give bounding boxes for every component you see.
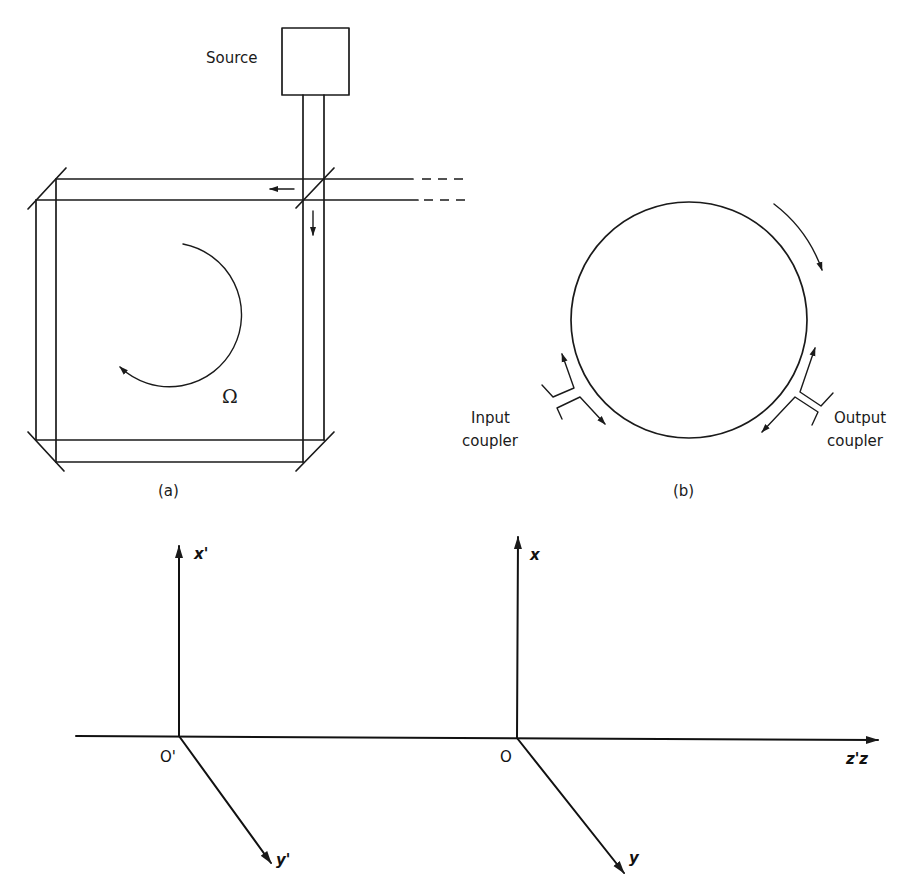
y-prime-label: y' — [276, 851, 290, 869]
output-coupler-label-line1: Output — [834, 409, 886, 427]
origin-prime-label: O' — [160, 748, 176, 766]
circulation-arrow-icon — [774, 204, 822, 270]
origin-label: O — [500, 748, 512, 766]
x-prime-label: x' — [193, 545, 208, 563]
z-axis — [76, 736, 878, 740]
y-label: y — [629, 849, 640, 867]
z-axis-label: z'z — [845, 750, 868, 768]
beamsplitter — [296, 168, 334, 208]
figure: Source Ω (a) — [0, 0, 913, 889]
output-coupler-upper-arm — [800, 348, 833, 406]
source-label: Source — [206, 49, 258, 67]
mirror-bottom-right — [296, 432, 334, 471]
panel-b-ring-resonator: Input coupler Output coupler (b) — [462, 202, 886, 500]
panel-a-ring-interferometer: Source Ω (a) — [28, 28, 470, 500]
unprimed-frame: x y O — [500, 537, 640, 873]
primed-frame: x' y' O' — [160, 545, 290, 869]
mirror-top-left — [28, 168, 66, 209]
output-coupler-label-line2: coupler — [827, 432, 884, 450]
y-prime-axis — [179, 736, 271, 863]
x-label: x — [529, 546, 541, 564]
rotation-arrow-icon — [120, 244, 242, 387]
mirror-bottom-left — [28, 432, 64, 471]
omega-label: Ω — [222, 385, 238, 407]
input-coupler — [542, 354, 605, 424]
source-box — [282, 28, 349, 95]
ring-resonator — [571, 202, 807, 438]
output-coupler-lower-arm — [762, 397, 818, 432]
panel-a-caption: (a) — [158, 482, 179, 500]
input-coupler-lower-arm — [557, 397, 605, 424]
coordinate-frames: z'z x' y' O' x y O — [76, 537, 878, 873]
panel-b-caption: (b) — [673, 482, 694, 500]
x-axis — [517, 537, 518, 738]
input-coupler-label-line2: coupler — [462, 432, 519, 450]
output-coupler — [762, 348, 833, 432]
input-coupler-label-line1: Input — [471, 409, 510, 427]
y-axis — [517, 738, 624, 873]
input-coupler-upper-arm — [542, 354, 574, 397]
